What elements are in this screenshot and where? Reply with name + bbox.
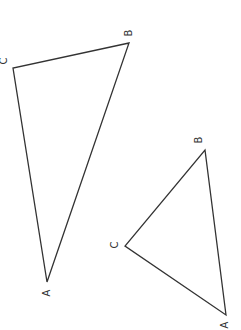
triangle-2-label-b: B — [193, 136, 204, 143]
triangle-2-label-a: A — [219, 321, 230, 328]
triangle-1-label-c: C — [0, 57, 9, 64]
triangle-1: A B C — [0, 29, 134, 296]
triangle-2: A B C — [109, 136, 230, 328]
triangle-1-label-b: B — [123, 29, 134, 36]
triangle-2-label-c: C — [109, 241, 120, 248]
triangle-1-label-a: A — [41, 289, 52, 296]
triangles-diagram: A B C A B C — [0, 0, 241, 330]
triangle-2-shape — [125, 150, 226, 315]
